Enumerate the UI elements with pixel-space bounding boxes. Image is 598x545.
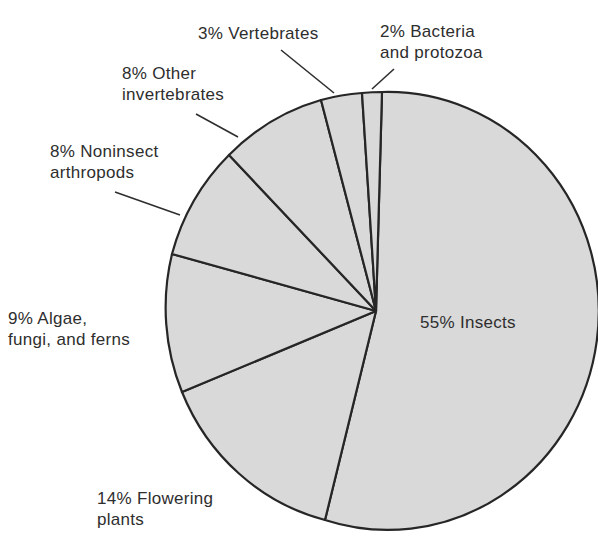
leader-line-other-invertebrates <box>196 114 238 137</box>
label-flowering-plants: 14% Flowering plants <box>97 488 213 530</box>
leader-line-bacteria <box>372 69 394 89</box>
pie-chart <box>0 0 598 545</box>
leader-line-noninsect-arthropods <box>115 192 180 215</box>
label-other-invertebrates: 8% Other invertebrates <box>122 63 224 105</box>
label-algae-fungi-ferns: 9% Algae, fungi, and ferns <box>8 308 130 350</box>
label-noninsect-arthropods: 8% Noninsect arthropods <box>50 141 159 183</box>
label-insects: 55% Insects <box>420 312 516 333</box>
leader-line-vertebrates <box>281 50 334 93</box>
label-bacteria-protozoa: 2% Bacteria and protozoa <box>380 21 483 63</box>
label-vertebrates: 3% Vertebrates <box>198 23 318 44</box>
